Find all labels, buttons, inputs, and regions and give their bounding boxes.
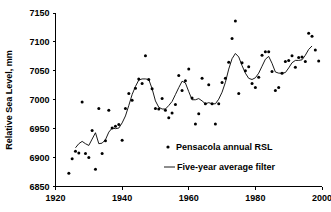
y-tick-label: 7100 [29, 37, 49, 47]
legend-dot-marker-icon [166, 145, 169, 148]
x-tick-label: 1920 [45, 193, 65, 203]
data-point [137, 77, 140, 80]
y-tick-label: 7150 [29, 8, 49, 18]
y-tick-label: 6900 [29, 153, 49, 163]
data-point [74, 150, 77, 153]
data-point [67, 172, 70, 175]
legend-label-five-year-average-filter: Five-year average filter [177, 162, 276, 172]
x-tick-label: 2000 [312, 193, 331, 203]
data-point [204, 102, 207, 105]
x-tick-label: 1940 [112, 193, 132, 203]
data-point [114, 125, 117, 128]
x-tick-label: 1960 [179, 193, 199, 203]
data-point [221, 81, 224, 84]
data-point [271, 70, 274, 73]
data-point [237, 92, 240, 95]
y-tick-label: 7050 [29, 66, 49, 76]
data-point [121, 139, 124, 142]
data-point [277, 86, 280, 89]
data-point [174, 103, 177, 106]
data-point [71, 157, 74, 160]
data-point [107, 109, 110, 112]
data-point [164, 109, 167, 112]
data-point [161, 97, 164, 100]
data-point [144, 54, 147, 57]
data-point [134, 87, 137, 90]
data-point [257, 76, 260, 79]
data-point [81, 101, 84, 104]
data-point [224, 77, 227, 80]
data-point [284, 60, 287, 63]
y-tick-label: 7000 [29, 95, 49, 105]
data-point [141, 82, 144, 85]
data-point [87, 156, 90, 159]
data-point [94, 168, 97, 171]
data-point [254, 86, 257, 89]
data-point [184, 79, 187, 82]
data-point [261, 54, 264, 57]
data-point [287, 59, 290, 62]
data-point [194, 123, 197, 126]
data-point [91, 129, 94, 132]
data-point [317, 60, 320, 63]
data-point [234, 20, 237, 23]
y-axis-ticks: 6850690069507000705071007150 [29, 8, 55, 192]
data-point [84, 152, 87, 155]
data-point [264, 50, 267, 53]
data-point [311, 35, 314, 38]
data-point [241, 61, 244, 64]
data-point [127, 92, 130, 95]
data-point [274, 89, 277, 92]
data-point [304, 60, 307, 63]
data-point [154, 107, 157, 110]
data-point [177, 74, 180, 77]
data-point [294, 66, 297, 69]
plot-area-background [55, 13, 322, 186]
data-point [181, 89, 184, 92]
data-point [211, 102, 214, 105]
data-point [207, 83, 210, 86]
data-point [197, 112, 200, 115]
data-point [244, 69, 247, 72]
data-point [281, 72, 284, 75]
x-tick-label: 1980 [245, 193, 265, 203]
data-point [101, 152, 104, 155]
data-point [247, 65, 250, 68]
data-point [187, 68, 190, 71]
legend-label-pensacola-annual-rsl: Pensacola annual RSL [176, 142, 273, 152]
sea-level-scatter-chart: 6850690069507000705071007150 19201940196… [0, 0, 331, 212]
data-point [147, 78, 150, 81]
data-point [131, 99, 134, 102]
data-point [124, 107, 127, 110]
x-axis-ticks: 19201940196019802000 [45, 187, 331, 203]
data-point [167, 116, 170, 119]
y-axis-title: Relative Sea Level, mm [4, 50, 14, 150]
data-point [217, 102, 220, 105]
data-point [267, 50, 270, 53]
data-point [227, 61, 230, 64]
data-point [231, 37, 234, 40]
data-point [214, 123, 217, 126]
data-point [301, 55, 304, 58]
data-point [297, 56, 300, 59]
chart-container: 6850690069507000705071007150 19201940196… [0, 0, 331, 212]
data-point [157, 108, 160, 111]
data-point [111, 127, 114, 130]
data-point [201, 77, 204, 80]
data-point [307, 32, 310, 35]
data-point [291, 54, 294, 57]
data-point [97, 107, 100, 110]
data-point [251, 82, 254, 85]
y-tick-label: 6850 [29, 182, 49, 192]
data-point [171, 112, 174, 115]
data-point [191, 97, 194, 100]
data-point [104, 139, 107, 142]
data-point [77, 151, 80, 154]
y-tick-label: 6950 [29, 124, 49, 134]
data-point [314, 49, 317, 52]
data-point [151, 87, 154, 90]
data-point [117, 123, 120, 126]
